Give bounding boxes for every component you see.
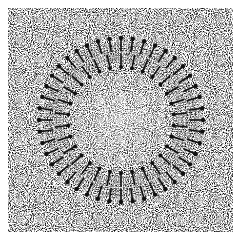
liposome-diagram (0, 0, 239, 237)
liposome-svg (0, 0, 239, 237)
vesicle-core (71, 70, 171, 170)
